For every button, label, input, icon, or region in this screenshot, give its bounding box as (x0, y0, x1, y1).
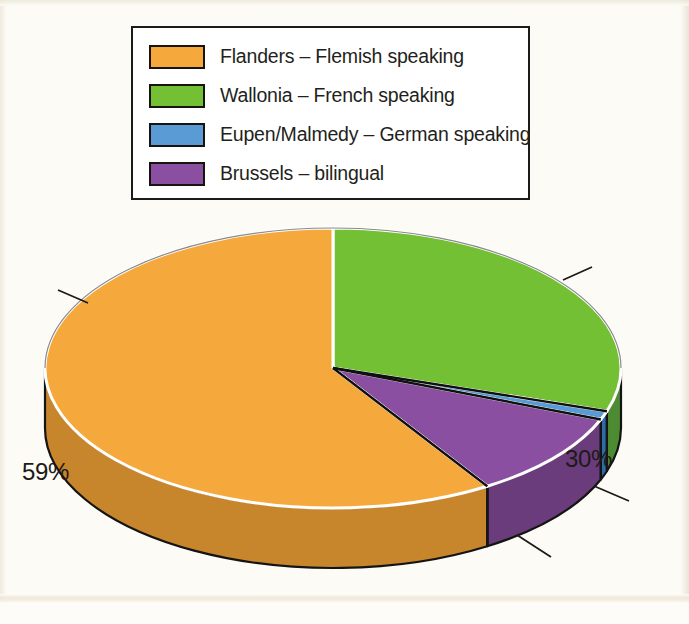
legend-label-flanders: Flanders – Flemish speaking (220, 45, 464, 68)
legend-label-eupen: Eupen/Malmedy – German speaking (220, 123, 530, 146)
chart-legend: Flanders – Flemish speaking Wallonia – F… (131, 26, 530, 200)
legend-label-brussels: Brussels – bilingual (220, 162, 384, 185)
leader-line-brussels (517, 535, 551, 557)
paper-bottom-margin (0, 603, 689, 624)
chart-page: Flanders – Flemish speaking Wallonia – F… (0, 0, 689, 624)
pie-chart-area: 59% 30% 1% 10% (0, 205, 689, 605)
pie-value-label-flanders: 59% (22, 458, 69, 486)
legend-item-eupen[interactable]: Eupen/Malmedy – German speaking (149, 115, 520, 154)
leader-line-wallonia (563, 267, 592, 280)
paper-scan-seam (0, 594, 689, 603)
legend-swatch-flanders (149, 45, 205, 69)
leader-line-eupen (594, 486, 629, 501)
legend-label-wallonia: Wallonia – French speaking (220, 84, 455, 107)
paper-edge-top (0, 0, 689, 6)
legend-swatch-wallonia (149, 84, 205, 108)
legend-item-wallonia[interactable]: Wallonia – French speaking (149, 76, 520, 115)
pie-value-label-wallonia: 30% (565, 445, 612, 473)
pie-chart-svg (0, 205, 689, 605)
pie-3d-group (45, 228, 621, 568)
legend-swatch-eupen (149, 123, 205, 147)
legend-item-brussels[interactable]: Brussels – bilingual (149, 154, 520, 193)
legend-swatch-brussels (149, 162, 205, 186)
legend-item-flanders[interactable]: Flanders – Flemish speaking (149, 37, 520, 76)
legend-item-list: Flanders – Flemish speaking Wallonia – F… (149, 37, 520, 193)
